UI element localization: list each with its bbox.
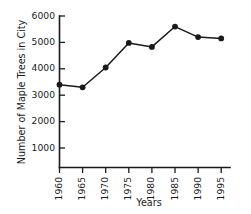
data-point-1995 [218, 36, 224, 42]
data-point-1990 [195, 34, 201, 40]
data-point-1980 [149, 44, 155, 50]
x-tick-label-1965: 1965 [76, 177, 87, 201]
y-axis-title: Number of Maple Trees in City [16, 19, 27, 164]
x-tick-label-1970: 1970 [99, 177, 110, 201]
maple-trees-line-chart: Number of Maple Trees in City 1000 2000 … [0, 0, 251, 214]
x-tick-label-1975: 1975 [122, 177, 133, 201]
x-tick-label-1985: 1985 [169, 177, 180, 201]
data-point-1965 [80, 84, 86, 90]
x-tick-label-1995: 1995 [215, 177, 226, 201]
data-point-1970 [103, 65, 109, 71]
data-point-1985 [172, 24, 178, 30]
data-point-1960 [57, 82, 63, 88]
data-point-1975 [126, 40, 132, 46]
series-markers-group [57, 24, 225, 91]
x-axis-title: Years [135, 197, 161, 208]
x-tick-label-1960: 1960 [53, 177, 64, 201]
y-tick-label-3000: 3000 [32, 89, 56, 100]
y-tick-label-5000: 5000 [32, 36, 56, 47]
y-tick-label-4000: 4000 [32, 62, 56, 73]
x-tick-label-1990: 1990 [192, 177, 203, 201]
y-tick-label-2000: 2000 [32, 115, 56, 126]
y-tick-label-6000: 6000 [32, 10, 56, 21]
y-tick-label-1000: 1000 [32, 142, 56, 153]
chart-canvas: Number of Maple Trees in City 1000 2000 … [0, 0, 251, 214]
